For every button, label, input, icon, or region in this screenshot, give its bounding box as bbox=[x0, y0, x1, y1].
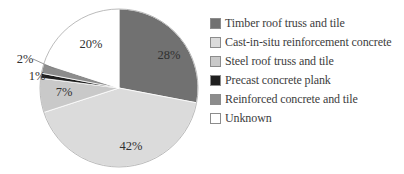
legend-item: Reinforced concrete and tile bbox=[210, 90, 391, 109]
pie-data-label-0: 28% bbox=[158, 48, 181, 62]
legend-label: Steel roof truss and tile bbox=[225, 54, 334, 69]
chart-legend: Timber roof truss and tile Cast-in-situ … bbox=[210, 14, 391, 128]
legend-item: Cast-in-situ reinforcement concrete bbox=[210, 33, 391, 52]
pie-data-label-2: 7% bbox=[56, 85, 73, 99]
pie-data-label-1: 42% bbox=[120, 139, 143, 153]
legend-item: Unknown bbox=[210, 109, 391, 128]
legend-swatch bbox=[210, 75, 221, 86]
pie-data-label-4: 2% bbox=[17, 52, 34, 66]
legend-swatch bbox=[210, 56, 221, 67]
legend-item: Steel roof truss and tile bbox=[210, 52, 391, 71]
legend-label: Precast concrete plank bbox=[225, 73, 331, 88]
legend-label: Cast-in-situ reinforcement concrete bbox=[225, 35, 391, 50]
chart-canvas: 28%42%7%1%2%20% Timber roof truss and ti… bbox=[0, 0, 404, 174]
legend-item: Precast concrete plank bbox=[210, 71, 391, 90]
pie-data-label-3: 1% bbox=[29, 69, 46, 83]
legend-swatch bbox=[210, 37, 221, 48]
legend-label: Timber roof truss and tile bbox=[225, 16, 345, 31]
pie-data-label-5: 20% bbox=[80, 37, 103, 51]
legend-swatch bbox=[210, 18, 221, 29]
legend-label: Reinforced concrete and tile bbox=[225, 92, 358, 107]
legend-swatch bbox=[210, 113, 221, 124]
legend-item: Timber roof truss and tile bbox=[210, 14, 391, 33]
legend-label: Unknown bbox=[225, 111, 272, 126]
legend-swatch bbox=[210, 94, 221, 105]
